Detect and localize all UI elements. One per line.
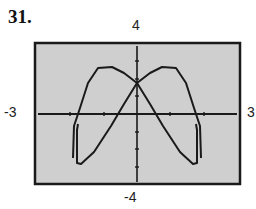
- graph: [0, 0, 256, 209]
